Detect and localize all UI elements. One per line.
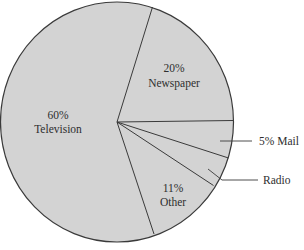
pie-chart: 60% Television 20% Newspaper 11% Other 5…: [0, 0, 304, 250]
label-television-pct: 60%: [47, 109, 69, 121]
label-television-name: Television: [34, 123, 82, 135]
label-other-name: Other: [160, 196, 186, 208]
label-other-pct: 11%: [163, 182, 184, 194]
label-radio: Radio: [263, 174, 291, 186]
label-newspaper-name: Newspaper: [148, 77, 200, 90]
label-newspaper-pct: 20%: [163, 62, 185, 74]
label-mail: 5% Mail: [259, 135, 299, 147]
